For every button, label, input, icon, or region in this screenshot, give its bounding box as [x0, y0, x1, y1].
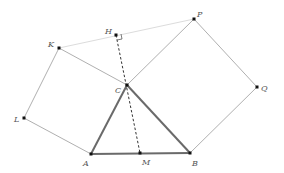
label-A: A: [82, 159, 89, 168]
label-P: P: [196, 10, 203, 19]
geometry-diagram: A B C M H K L P Q: [0, 0, 284, 173]
label-Q: Q: [261, 84, 268, 93]
point-Q: [256, 86, 259, 89]
segment-KL: [24, 48, 59, 118]
label-L: L: [13, 115, 19, 124]
segment-QB: [190, 87, 257, 153]
label-B: B: [191, 159, 198, 168]
label-K: K: [47, 40, 55, 49]
point-A: [90, 153, 93, 156]
label-M: M: [141, 158, 151, 167]
segment-CP: [127, 19, 194, 85]
segment-LA: [24, 118, 91, 154]
label-C: C: [115, 86, 121, 95]
segment-AC: [91, 85, 127, 154]
segment-CK: [59, 48, 127, 85]
segment-BC: [127, 85, 190, 153]
segment-PQ: [194, 19, 257, 87]
point-K: [58, 47, 61, 50]
point-C: [126, 84, 129, 87]
point-H: [115, 34, 118, 37]
point-M: [139, 152, 142, 155]
segment-KP: [59, 19, 194, 48]
point-L: [23, 117, 26, 120]
point-P: [193, 18, 196, 21]
point-B: [189, 152, 192, 155]
label-H: H: [104, 27, 113, 36]
